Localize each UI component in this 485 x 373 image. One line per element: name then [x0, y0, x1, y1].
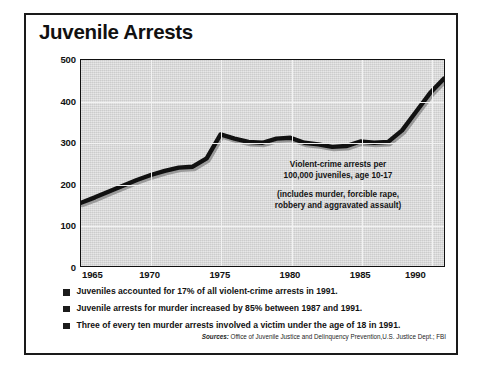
x-tick-label: 1985 [350, 269, 371, 280]
x-axis: 196519701975198019851990 [80, 269, 445, 283]
gridline-vertical [221, 60, 222, 266]
x-tick-label: 1965 [82, 269, 103, 280]
annotation-line-4: robbery and aggravated assault) [248, 200, 428, 211]
list-item-label: Three of every ten murder arrests involv… [77, 321, 401, 330]
y-axis: 0100200300400500 [26, 59, 76, 267]
sources-note: Sources: Office of Juvenile Justice and … [63, 333, 446, 340]
list-item: Juveniles accounted for 17% of all viole… [63, 287, 453, 296]
x-tick-label: 1990 [405, 269, 426, 280]
plot-wrapper: Violent-crime arrests per 100,000 juveni… [80, 59, 445, 267]
annotation-line-2: 100,000 juveniles, age 10-17 [248, 170, 428, 181]
bullet-square-icon [63, 289, 70, 296]
y-tick-label: 300 [30, 137, 76, 148]
list-item: Juvenile arrests for murder increased by… [63, 304, 453, 313]
annotation-block-primary: Violent-crime arrests per 100,000 juveni… [248, 159, 428, 182]
sources-label: Sources: [202, 333, 229, 340]
bullet-list: Juveniles accounted for 17% of all viole… [63, 287, 453, 338]
gridline-horizontal [81, 143, 444, 144]
list-item: Three of every ten murder arrests involv… [63, 321, 453, 330]
sources-text: Office of Juvenile Justice and Delinquen… [229, 333, 446, 340]
y-tick-label: 200 [30, 178, 76, 189]
y-tick-label: 500 [30, 54, 76, 65]
y-tick-label: 0 [30, 262, 76, 273]
figure-panel: Juvenile Arrests 0100200300400500 Violen… [24, 13, 458, 355]
y-tick-label: 400 [30, 95, 76, 106]
gridline-vertical [432, 60, 433, 266]
x-tick-label: 1980 [280, 269, 301, 280]
list-item-label: Juveniles accounted for 17% of all viole… [77, 287, 338, 296]
x-tick-label: 1975 [209, 269, 230, 280]
gridline-vertical [151, 60, 152, 266]
list-item-label: Juvenile arrests for murder increased by… [77, 304, 363, 313]
gridline-horizontal [81, 226, 444, 227]
page-title: Juvenile Arrests [39, 20, 193, 44]
x-tick-label: 1970 [139, 269, 160, 280]
annotation-block-secondary: (includes murder, forcible rape, robbery… [248, 189, 428, 212]
bullet-square-icon [63, 306, 70, 313]
y-tick-label: 100 [30, 220, 76, 231]
chart-annotation: Violent-crime arrests per 100,000 juveni… [248, 159, 428, 211]
annotation-line-3: (includes murder, forcible rape, [248, 189, 428, 200]
bullet-square-icon [63, 323, 70, 330]
gridline-horizontal [81, 102, 444, 103]
annotation-line-1: Violent-crime arrests per [248, 159, 428, 170]
